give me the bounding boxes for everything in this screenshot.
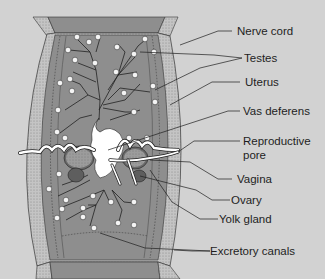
label-yolk-gland: Yolk gland [219,213,272,225]
label-nerve-cord: Nerve cord [237,25,293,37]
label-ovary: Ovary [231,194,262,206]
label-testes: Testes [244,52,277,64]
label-excretory-canals: Excretory canals [210,245,295,257]
label-vagina: Vagina [237,173,272,185]
proglottid-diagram: Nerve cord Testes Uterus Vas deferens Re… [0,0,325,279]
label-vas-deferens: Vas deferens [243,105,310,117]
label-uterus: Uterus [245,76,279,88]
label-reproductive-pore-line1: Reproductive [243,135,311,147]
label-reproductive-pore-line2: pore [243,149,266,161]
lower-segment [36,262,180,279]
